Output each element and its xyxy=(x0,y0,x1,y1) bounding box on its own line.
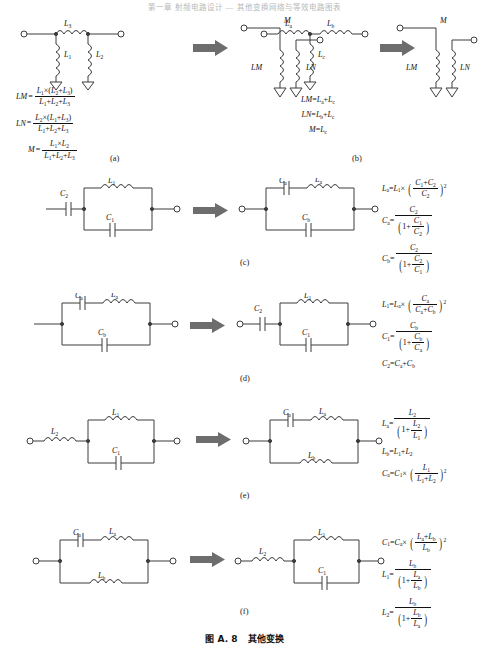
sublabel-c: (c) xyxy=(240,257,249,267)
formulas-a: LM= L1×(L2+L3) L1+L2+L3 LN= L2×(L1+L3) L… xyxy=(16,86,78,166)
formula-f-C1: C1=Ca× ( La+Lb Lb )2 xyxy=(382,532,446,554)
svg-text:La: La xyxy=(318,408,326,417)
svg-text:Ca: Ca xyxy=(73,528,81,538)
formula-a-LM: LM= L1×(L2+L3) L1+L2+L3 xyxy=(16,86,78,108)
circuit-b-right: M LM LN xyxy=(392,14,489,102)
svg-text:La: La xyxy=(110,293,118,300)
svg-text:L1: L1 xyxy=(303,293,311,301)
svg-text:C1: C1 xyxy=(302,328,310,338)
svg-text:L1: L1 xyxy=(107,178,115,186)
svg-text:Cb: Cb xyxy=(302,213,310,223)
svg-text:La: La xyxy=(314,178,322,185)
svg-text:L2: L2 xyxy=(258,547,266,557)
formula-a-LN: LN= L2×(L1+L3) L1+L2+L3 xyxy=(16,113,78,135)
formulas-c: La=L1× ( C1+C2 C2 )2 Ca= C2 (1+C1C2) Cb=… xyxy=(382,178,447,281)
circuit-b-left: La Lb Lc xyxy=(258,16,378,91)
svg-text:L1: L1 xyxy=(317,528,325,538)
circuit-f-left: Ca La Lb xyxy=(30,528,180,596)
formula-f-L2: L2= Lb (1+LbLa) xyxy=(382,597,446,630)
svg-text:L3: L3 xyxy=(63,19,71,29)
svg-text:LN: LN xyxy=(459,63,470,72)
svg-text:Lc: Lc xyxy=(317,50,325,60)
formulas-b: LM=La+Lc LN=Lb+Lc M=Lc xyxy=(258,95,378,139)
sublabel-d: (d) xyxy=(240,373,250,383)
circuit-d-right: C2 L1 C1 xyxy=(234,293,384,355)
formula-f-L1: L1= Lb (1+LaLb) xyxy=(382,559,446,592)
formula-b-LM: LM=La+Lc xyxy=(258,95,378,105)
svg-text:M: M xyxy=(439,16,448,25)
formulas-e: La= L2 (1+L2L1) Lb=L1+L2 Ca=C1× ( L1 L1+… xyxy=(382,408,447,489)
formula-b-M: M=Lc xyxy=(258,125,378,135)
svg-text:La: La xyxy=(284,19,292,29)
sublabel-b: (b) xyxy=(352,153,362,163)
svg-text:C2: C2 xyxy=(254,304,262,314)
formula-b-LN: LN=Lb+Lc xyxy=(258,110,378,120)
formula-e-Ca: Ca=C1× ( L1 L1+L2 )2 xyxy=(382,463,447,485)
circuit-c-right: Ca La Cb xyxy=(236,178,381,240)
sublabel-e: (e) xyxy=(240,490,249,500)
formula-c-La: La=L1× ( C1+C2 C2 )2 xyxy=(382,178,447,200)
transform-arrow-d xyxy=(190,318,226,333)
svg-text:La: La xyxy=(108,528,116,537)
svg-text:Cb: Cb xyxy=(98,328,106,338)
svg-text:L2: L2 xyxy=(50,427,58,437)
circuit-d-left: Ca La Cb xyxy=(32,293,182,355)
transform-arrow-f xyxy=(190,552,226,567)
formula-e-La: La= L2 (1+L2L1) xyxy=(382,408,447,441)
figure-page: 第一章 射频电路设计 — 其他变换网络与等效电路图表 L3 xyxy=(0,0,489,659)
svg-text:C1: C1 xyxy=(318,566,326,576)
transform-arrow-a xyxy=(193,40,229,56)
transform-arrow-c xyxy=(193,203,229,218)
sublabel-a: (a) xyxy=(110,153,119,163)
svg-text:L1: L1 xyxy=(111,408,119,418)
circuit-e-right: Ca La Lb xyxy=(240,408,385,476)
formula-e-Lb: Lb=L1+L2 xyxy=(382,447,447,457)
circuit-a-left: L3 L1 L2 xyxy=(18,16,188,91)
formula-c-Ca: Ca= C2 (1+C1C2) xyxy=(382,205,447,238)
circuit-e-left: L2 L1 C1 xyxy=(24,408,184,476)
circuit-c-left: C2 L1 C1 xyxy=(44,178,189,240)
svg-text:LM: LM xyxy=(405,63,418,72)
figure-caption-number: 图 A. 8 xyxy=(205,634,237,644)
formulas-f: C1=Ca× ( La+Lb Lb )2 L1= Lb (1+LaLb) L2=… xyxy=(382,532,446,635)
svg-text:Ca: Ca xyxy=(283,408,291,418)
formula-d-C1: C1= Cb (1+CbCa) xyxy=(382,321,446,354)
svg-text:Ca: Ca xyxy=(75,293,83,301)
svg-text:Ca: Ca xyxy=(279,178,287,186)
svg-text:Lb: Lb xyxy=(97,571,105,581)
formula-d-C2: C2=Ca+Cb xyxy=(382,359,446,369)
sublabel-f: (f) xyxy=(240,606,249,616)
figure-caption-title: 其他变换 xyxy=(248,634,284,644)
svg-text:Lb: Lb xyxy=(326,19,334,29)
svg-text:C1: C1 xyxy=(106,213,114,223)
running-header: 第一章 射频电路设计 — 其他变换网络与等效电路图表 xyxy=(0,1,489,12)
formula-a-M: M= L1×L2 L1+L2+L3 xyxy=(28,139,78,161)
svg-text:C2: C2 xyxy=(60,189,68,199)
formulas-d: L1=La× ( Ca Ca+Cb )2 C1= Cb (1+CbCa) C2=… xyxy=(382,294,446,373)
svg-text:L1: L1 xyxy=(63,50,71,60)
svg-text:Lb: Lb xyxy=(307,451,315,461)
formula-c-Cb: Cb= C2 (1+C2C1) xyxy=(382,243,447,276)
transform-arrow-e xyxy=(196,432,232,447)
circuit-f-right: L2 L1 C1 xyxy=(232,528,387,596)
figure-caption: 图 A. 8其他变换 xyxy=(0,632,489,645)
svg-text:C1: C1 xyxy=(112,446,120,456)
formula-d-L1: L1=La× ( Ca Ca+Cb )2 xyxy=(382,294,446,316)
svg-text:L2: L2 xyxy=(95,50,103,60)
